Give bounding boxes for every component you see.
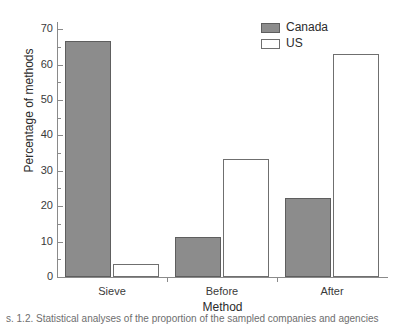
x-tick [167, 278, 168, 282]
y-tick-major [58, 277, 63, 278]
x-tick [277, 278, 278, 282]
legend-swatch-canada-icon [261, 23, 280, 33]
y-tick-label: 10 [13, 236, 53, 247]
bar-chart-figure: 010203040506070 SieveBeforeAfter Percent… [0, 0, 401, 325]
x-tick-label-sieve: Sieve [67, 285, 157, 297]
y-axis-title: Percentage of methods [23, 21, 36, 201]
x-axis-line [57, 277, 388, 278]
bar-before-us [223, 159, 269, 277]
bar-before-canada [175, 237, 221, 277]
bar-sieve-us [113, 264, 159, 277]
x-tick-label-after: After [287, 285, 377, 297]
legend-swatch-us-icon [261, 39, 280, 49]
legend-item-canada: Canada [261, 20, 328, 35]
bar-after-canada [285, 198, 331, 277]
plot-area [57, 22, 387, 277]
bar-after-us [333, 54, 379, 277]
legend-label-canada: Canada [286, 21, 328, 34]
y-tick-label: 20 [13, 200, 53, 211]
legend-item-us: US [261, 36, 328, 51]
y-tick-label: 0 [13, 271, 53, 282]
chart-legend: Canada US [261, 20, 328, 52]
caption-fragment: s. 1.2. Statistical analyses of the prop… [6, 313, 401, 324]
legend-label-us: US [286, 37, 303, 50]
bar-sieve-canada [65, 41, 111, 277]
x-tick-label-before: Before [177, 285, 267, 297]
